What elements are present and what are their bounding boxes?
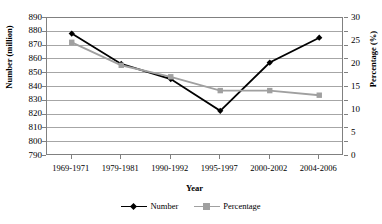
data-point-percentage — [317, 93, 322, 98]
y-axis-right-tick — [344, 58, 348, 59]
y-axis-right-title: Percentage (%) — [368, 19, 378, 99]
x-axis-tick — [71, 155, 72, 159]
legend-swatch-percentage — [194, 202, 220, 211]
legend-item-number[interactable]: Number — [121, 201, 178, 211]
y-axis-right-tick — [344, 141, 348, 142]
x-axis-tick — [318, 155, 319, 159]
y-axis-right-tick — [344, 86, 348, 87]
x-axis-title: Year — [46, 183, 343, 193]
y-axis-right-tick-label: 5 — [351, 128, 373, 137]
series-line-number — [72, 34, 320, 111]
diamond-marker-icon — [130, 202, 137, 209]
y-axis-left-title: Number (million) — [4, 17, 14, 97]
y-axis-left-tick-label: 790 — [2, 151, 42, 160]
y-axis-right-tick — [344, 72, 348, 73]
y-axis-left-tick — [42, 155, 46, 156]
x-axis-tick — [269, 155, 270, 159]
y-axis-right-tick — [344, 31, 348, 32]
square-marker-icon — [203, 203, 210, 210]
data-point-percentage — [267, 88, 272, 93]
y-axis-right-tick-label: 10 — [351, 105, 373, 114]
legend-swatch-number — [121, 202, 147, 211]
data-point-percentage — [119, 63, 124, 68]
chart-container: 790800810820830840850860870880890 051015… — [0, 0, 382, 224]
x-axis-tick — [219, 155, 220, 159]
x-axis-tick — [120, 155, 121, 159]
plot-area — [46, 17, 343, 155]
x-axis-tick — [170, 155, 171, 159]
y-axis-right-tick — [344, 45, 348, 46]
legend-label: Percentage — [223, 201, 260, 211]
data-point-percentage — [218, 88, 223, 93]
y-axis-right-tick — [344, 114, 348, 115]
data-point-number — [316, 35, 322, 41]
data-point-percentage — [168, 74, 173, 79]
y-axis-right-tick — [344, 100, 348, 101]
legend-item-percentage[interactable]: Percentage — [194, 201, 260, 211]
y-axis-right-tick — [344, 155, 348, 156]
x-axis-tick-label: 2004-2006 — [288, 163, 348, 173]
data-point-percentage — [69, 40, 74, 45]
legend-label: Number — [150, 201, 178, 211]
chart-legend: NumberPercentage — [0, 201, 382, 211]
series-line-percentage — [72, 42, 320, 95]
series-plot — [47, 17, 344, 155]
y-axis-right-tick — [344, 127, 348, 128]
y-axis-left-tick-label: 800 — [2, 137, 42, 146]
x-axis-labels: 1969-19711979-19811990-19921995-19972000… — [46, 163, 343, 175]
y-axis-right-tick — [344, 17, 348, 18]
y-axis-left-tick-label: 820 — [2, 109, 42, 118]
y-axis-left-tick-label: 810 — [2, 123, 42, 132]
y-axis-right-tick-label: 0 — [351, 151, 373, 160]
